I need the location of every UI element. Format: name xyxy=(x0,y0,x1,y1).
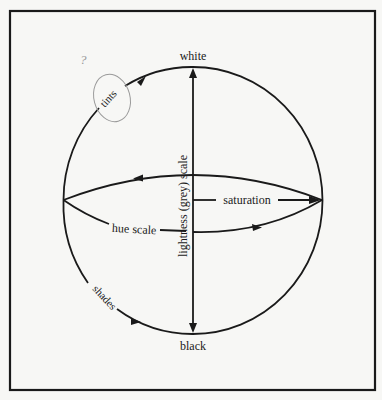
colour-sphere-figure: white black saturation hue scale lightne… xyxy=(0,0,382,400)
lightness-scale-label: lightness (grey) scale xyxy=(176,155,190,257)
shades-label: shades xyxy=(91,282,120,312)
question-mark-annotation: ? xyxy=(80,52,87,67)
sphere-diagram-svg: white black saturation hue scale lightne… xyxy=(0,0,382,400)
white-label: white xyxy=(180,49,207,63)
black-label: black xyxy=(180,339,206,353)
tints-arc-lower xyxy=(63,108,99,200)
lightness-down-arrow-icon xyxy=(189,323,197,333)
lightness-up-arrow-icon xyxy=(189,68,197,78)
equator-front-curve-left xyxy=(64,200,110,224)
tints-label: tints xyxy=(97,87,119,109)
shades-arrow-icon xyxy=(131,318,141,325)
saturation-label: saturation xyxy=(223,193,270,207)
shades-arc-lower xyxy=(117,309,193,334)
hue-scale-label: hue scale xyxy=(112,221,157,237)
tints-arc-upper xyxy=(125,67,193,86)
